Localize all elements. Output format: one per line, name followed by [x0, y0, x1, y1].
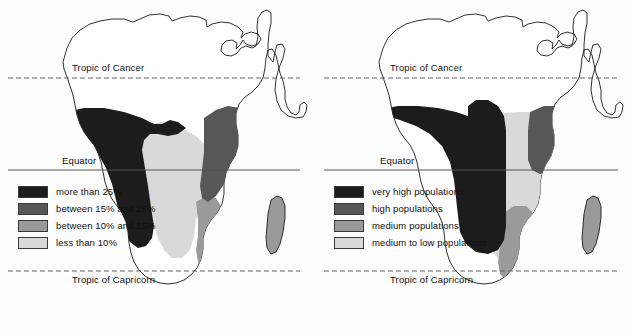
tropic-of-cancer-label-right: Tropic of Cancer	[390, 62, 462, 73]
legend-item: less than 10%	[18, 234, 156, 251]
africa-map-right	[316, 0, 631, 334]
map-panel-right: Tropic of Cancer Equator Tropic of Capri…	[316, 0, 631, 334]
legend-label: medium populations	[372, 220, 459, 231]
region-class2-right	[528, 106, 572, 174]
legend-item: between 10% and 15%	[18, 217, 156, 234]
tropic-of-cancer-label-left: Tropic of Cancer	[72, 62, 144, 73]
region-class2-left	[200, 106, 250, 202]
legend-label: more than 25%	[56, 186, 122, 197]
legend-label: high populations	[372, 203, 443, 214]
figure-container: Tropic of Cancer Equator Tropic of Capri…	[0, 0, 631, 334]
africa-map-left	[0, 0, 315, 334]
legend-right: very high populations high populations m…	[334, 183, 487, 251]
map-panel-left: Tropic of Cancer Equator Tropic of Capri…	[0, 0, 315, 334]
legend-label: between 10% and 15%	[56, 220, 156, 231]
tropic-of-capricorn-label-right: Tropic of Capricorn	[390, 274, 473, 285]
legend-swatch	[18, 186, 48, 198]
legend-item: more than 25%	[18, 183, 156, 200]
legend-swatch	[18, 237, 48, 249]
legend-swatch	[334, 237, 364, 249]
madagascar-left	[266, 196, 285, 254]
legend-item: medium populations	[334, 217, 487, 234]
legend-swatch	[334, 186, 364, 198]
legend-swatch	[18, 203, 48, 215]
legend-swatch	[334, 203, 364, 215]
tropic-of-capricorn-label-left: Tropic of Capricorn	[72, 274, 155, 285]
legend-label: very high populations	[372, 186, 464, 197]
madagascar-right	[582, 196, 601, 254]
legend-label: between 15% and 25%	[56, 203, 156, 214]
legend-item: high populations	[334, 200, 487, 217]
legend-item: medium to low populations	[334, 234, 487, 251]
legend-swatch	[18, 220, 48, 232]
legend-left: more than 25% between 15% and 25% betwee…	[18, 183, 156, 251]
legend-label: less than 10%	[56, 237, 117, 248]
region-class3-left-mainland	[196, 196, 224, 266]
legend-item: between 15% and 25%	[18, 200, 156, 217]
legend-swatch	[334, 220, 364, 232]
legend-item: very high populations	[334, 183, 487, 200]
legend-label: medium to low populations	[372, 237, 487, 248]
equator-label-left: Equator	[62, 155, 96, 166]
equator-label-right: Equator	[380, 155, 414, 166]
